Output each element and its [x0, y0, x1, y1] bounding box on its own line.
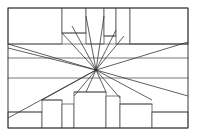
- block-upper-right-wide: [130, 8, 188, 44]
- block-upper-left-wide: [8, 8, 62, 44]
- perspective-figure: [0, 0, 197, 137]
- perspective-drawing-canvas: [0, 0, 197, 137]
- block-upper-center-right: [104, 8, 116, 36]
- block-lower-right-mid: [120, 104, 152, 128]
- block-upper-center-tall: [86, 8, 104, 44]
- block-lower-left-low: [8, 112, 42, 128]
- block-lower-right-low: [152, 112, 188, 128]
- block-upper-right-tower: [116, 8, 130, 44]
- block-lower-left-mid: [42, 100, 62, 128]
- block-lower-center-left: [62, 104, 74, 128]
- upper-building-blocks: [8, 8, 188, 44]
- block-lower-center-right: [106, 96, 120, 128]
- block-lower-center-tall: [74, 92, 106, 128]
